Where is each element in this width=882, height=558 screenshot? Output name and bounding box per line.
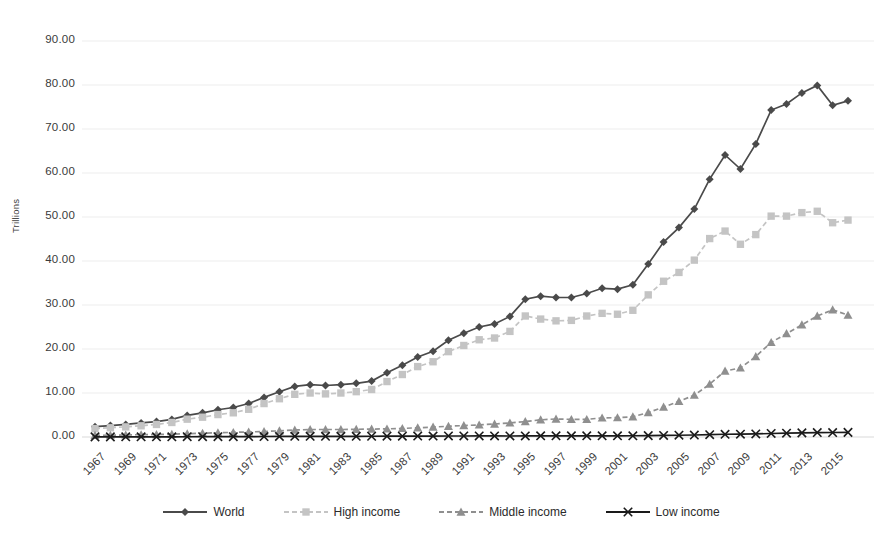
data-point-square xyxy=(353,388,360,395)
chart-container: Trillions 0.0010.0020.0030.0040.0050.006… xyxy=(0,0,882,558)
data-point-square xyxy=(368,386,375,393)
data-point-square xyxy=(737,241,744,248)
data-point-diamond xyxy=(181,508,189,516)
data-point-diamond xyxy=(306,381,314,389)
data-point-square xyxy=(337,389,344,396)
data-point-diamond xyxy=(567,294,575,302)
data-point-diamond xyxy=(414,353,422,361)
data-point-triangle xyxy=(213,428,222,436)
data-point-square xyxy=(614,311,621,318)
data-point-diamond xyxy=(583,290,591,298)
legend-label: High income xyxy=(334,505,401,519)
data-point-square xyxy=(721,227,728,234)
data-point-diamond xyxy=(383,369,391,377)
data-point-square xyxy=(675,269,682,276)
data-point-triangle xyxy=(644,408,653,416)
legend-item-world[interactable]: World xyxy=(162,505,244,519)
data-point-triangle xyxy=(721,367,730,375)
data-point-triangle xyxy=(628,412,637,420)
data-point-diamond xyxy=(291,382,299,390)
data-point-square xyxy=(260,400,267,407)
data-point-triangle xyxy=(613,413,622,421)
data-point-diamond xyxy=(322,382,330,390)
data-point-square xyxy=(783,212,790,219)
series-line xyxy=(95,211,848,428)
data-point-square xyxy=(752,231,759,238)
data-point-triangle xyxy=(767,338,776,346)
data-point-square xyxy=(706,235,713,242)
data-point-square xyxy=(767,212,774,219)
legend-swatch-square-icon xyxy=(283,505,329,519)
data-point-square xyxy=(691,256,698,263)
series-high-income xyxy=(91,208,851,433)
data-point-diamond xyxy=(275,388,283,396)
data-point-square xyxy=(122,423,129,430)
data-point-diamond xyxy=(552,294,560,302)
data-point-square xyxy=(302,508,309,515)
data-point-triangle xyxy=(797,320,806,328)
data-point-triangle xyxy=(429,423,438,431)
data-point-square xyxy=(460,342,467,349)
data-point-square xyxy=(829,219,836,226)
data-point-diamond xyxy=(460,329,468,337)
data-point-square xyxy=(798,209,805,216)
data-point-diamond xyxy=(475,323,483,331)
series-line xyxy=(95,85,848,426)
data-point-triangle xyxy=(828,305,837,313)
data-point-square xyxy=(291,391,298,398)
series-low-income xyxy=(91,428,852,441)
data-point-square xyxy=(583,312,590,319)
data-point-triangle xyxy=(229,428,238,436)
legend-item-low-income[interactable]: Low income xyxy=(605,505,720,519)
plot-area xyxy=(0,0,882,558)
data-point-square xyxy=(660,278,667,285)
data-point-diamond xyxy=(706,175,714,183)
data-point-diamond xyxy=(598,284,606,292)
data-point-square xyxy=(568,317,575,324)
data-point-square xyxy=(429,358,436,365)
data-point-square xyxy=(629,307,636,314)
data-point-square xyxy=(322,390,329,397)
data-point-square xyxy=(645,291,652,298)
chart-legend: WorldHigh incomeMiddle incomeLow income xyxy=(0,505,882,519)
data-point-square xyxy=(506,328,513,335)
data-point-triangle xyxy=(844,311,853,319)
data-point-square xyxy=(137,422,144,429)
data-point-diamond xyxy=(337,381,345,389)
data-point-square xyxy=(844,216,851,223)
data-point-square xyxy=(552,317,559,324)
data-point-square xyxy=(153,421,160,428)
legend-item-middle-income[interactable]: Middle income xyxy=(438,505,566,519)
legend-swatch-cross-icon xyxy=(605,505,651,519)
data-point-diamond xyxy=(352,379,360,387)
series-world xyxy=(91,81,852,430)
legend-label: Middle income xyxy=(489,505,566,519)
data-point-square xyxy=(383,378,390,385)
data-point-triangle xyxy=(782,329,791,337)
data-point-diamond xyxy=(752,140,760,148)
data-point-diamond xyxy=(491,320,499,328)
data-point-square xyxy=(476,336,483,343)
data-point-square xyxy=(184,416,191,423)
data-point-diamond xyxy=(537,292,545,300)
data-point-triangle xyxy=(674,397,683,405)
data-point-square xyxy=(445,348,452,355)
data-point-diamond xyxy=(368,377,376,385)
data-point-square xyxy=(168,419,175,426)
data-point-triangle xyxy=(736,363,745,371)
data-point-square xyxy=(245,406,252,413)
data-point-square xyxy=(414,363,421,370)
gridlines xyxy=(82,41,874,437)
legend-item-high-income[interactable]: High income xyxy=(283,505,401,519)
data-point-square xyxy=(230,409,237,416)
data-point-triangle xyxy=(659,403,668,411)
data-point-square xyxy=(537,315,544,322)
legend-label: World xyxy=(213,505,244,519)
data-point-square xyxy=(276,395,283,402)
data-point-square xyxy=(598,310,605,317)
data-point-triangle xyxy=(413,423,422,431)
legend-swatch-diamond-icon xyxy=(162,505,208,519)
data-point-square xyxy=(399,371,406,378)
data-point-square xyxy=(306,389,313,396)
data-point-square xyxy=(522,312,529,319)
